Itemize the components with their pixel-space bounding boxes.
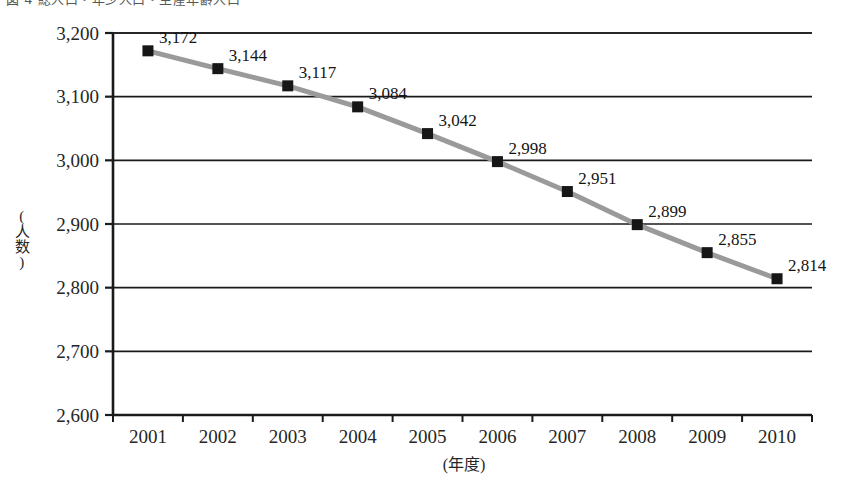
x-tick-label: 2007: [548, 426, 586, 447]
x-tick-label: 2005: [409, 426, 447, 447]
data-series-group: [148, 51, 777, 279]
data-marker: [562, 186, 573, 197]
data-marker: [772, 273, 783, 284]
data-point-label: 3,117: [299, 63, 337, 82]
x-tick-label: 2008: [618, 426, 656, 447]
x-axis-title: (年度): [443, 456, 486, 474]
y-tick-label: 3,000: [56, 150, 99, 171]
data-marker: [212, 63, 223, 74]
data-point-label: 2,998: [508, 139, 546, 158]
gridlines-group: [113, 33, 812, 351]
data-point-label: 2,899: [648, 202, 686, 221]
x-tick-label: 2001: [129, 426, 167, 447]
x-tick-label: 2003: [269, 426, 307, 447]
data-point-label: 2,855: [718, 230, 756, 249]
y-tick-label: 2,700: [56, 341, 99, 362]
x-tick-label: 2006: [478, 426, 516, 447]
x-tick-labels-group: 2001200220032004200520062007200820092010: [129, 426, 796, 447]
y-tick-label: 2,800: [56, 277, 99, 298]
data-point-label: 2,951: [578, 169, 616, 188]
data-marker: [422, 128, 433, 139]
data-labels-group: 3,1723,1443,1173,0843,0422,9982,9512,899…: [159, 28, 827, 275]
data-marker: [632, 219, 643, 230]
figure-container: 図 4 総人口・年少人口・生産年齢人口 (人数) 3,2003,1003,000…: [0, 0, 844, 491]
x-tick-label: 2010: [758, 426, 796, 447]
line-chart: 3,2003,1003,0002,9002,8002,7002,600 2001…: [0, 0, 844, 491]
data-point-label: 3,172: [159, 28, 197, 47]
data-marker: [702, 247, 713, 258]
series-line: [148, 51, 777, 279]
data-marker: [492, 156, 503, 167]
data-markers-group: [142, 45, 782, 284]
x-tick-label: 2002: [199, 426, 237, 447]
data-point-label: 3,042: [439, 111, 477, 130]
data-marker: [282, 80, 293, 91]
data-point-label: 3,084: [369, 84, 408, 103]
data-point-label: 3,144: [229, 46, 268, 65]
data-marker: [142, 45, 153, 56]
y-tick-labels-group: 3,2003,1003,0002,9002,8002,7002,600: [56, 23, 99, 426]
x-tick-label: 2009: [688, 426, 726, 447]
x-tick-label: 2004: [339, 426, 378, 447]
y-tick-label: 2,900: [56, 214, 99, 235]
y-tick-label: 3,200: [56, 23, 99, 44]
data-point-label: 2,814: [788, 256, 827, 275]
y-tick-label: 3,100: [56, 86, 99, 107]
y-tick-label: 2,600: [56, 405, 99, 426]
data-marker: [352, 101, 363, 112]
